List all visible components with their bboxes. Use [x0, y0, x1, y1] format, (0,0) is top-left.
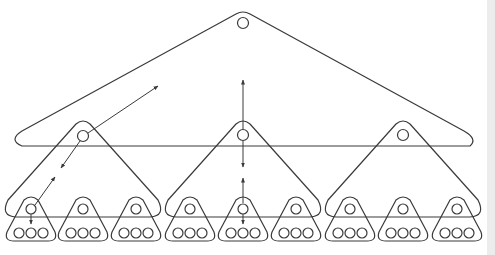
root-triangle — [15, 12, 473, 146]
root-node-circle — [238, 18, 249, 29]
arrow-left-up — [88, 86, 158, 133]
level1-node-circles — [78, 130, 409, 142]
arrow-leaf-up — [35, 177, 55, 205]
leaf-bottom-circles — [14, 228, 474, 238]
leaf-top-circles — [26, 204, 462, 214]
tree-diagram — [0, 0, 495, 255]
arrow-left-down — [61, 141, 80, 168]
